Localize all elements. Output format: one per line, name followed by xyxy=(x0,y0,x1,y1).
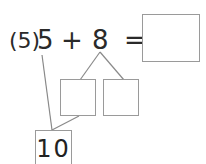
make-ten-value: 10 xyxy=(36,137,71,161)
part-to-ten-line xyxy=(52,116,79,130)
branch-left-line xyxy=(80,52,100,80)
operand-to-ten-line xyxy=(42,55,52,130)
decomposition-right-box[interactable] xyxy=(103,79,139,116)
decomposition-left-box[interactable] xyxy=(60,79,96,116)
make-ten-box: 10 xyxy=(35,130,72,164)
branch-right-line xyxy=(100,52,124,80)
